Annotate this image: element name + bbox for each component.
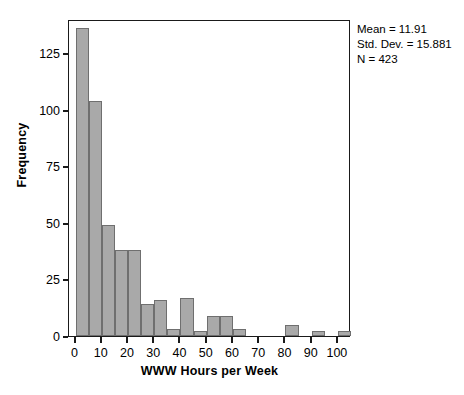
histogram-bar: [312, 331, 325, 336]
tick-mark: [257, 337, 259, 343]
y-axis-tick-label: 50: [46, 215, 60, 233]
stat-std-dev: Std. Dev. = 15.881: [357, 37, 461, 52]
stat-n: N = 423: [357, 52, 461, 67]
histogram-bar: [285, 325, 298, 336]
histogram-bar: [338, 331, 351, 336]
histogram-bar: [194, 331, 207, 336]
tick-mark: [126, 337, 128, 343]
y-axis-tick-label: 0: [53, 328, 60, 346]
tick-mark: [152, 337, 154, 343]
x-axis-tick-label: 100: [317, 345, 357, 361]
tick-mark: [178, 337, 180, 343]
y-axis-tick-label: 75: [46, 158, 60, 176]
histogram-bar: [233, 329, 246, 336]
histogram-bar: [141, 304, 154, 336]
y-axis: 0255075100125: [0, 20, 68, 338]
histogram-bar: [220, 316, 233, 336]
y-axis-tick-label: 100: [39, 102, 60, 120]
histogram-bar: [76, 28, 89, 336]
x-axis-title: WWW Hours per Week: [68, 364, 351, 378]
histogram-bar: [154, 300, 167, 336]
tick-mark: [74, 337, 76, 343]
histogram-bar: [89, 101, 102, 336]
tick-mark: [205, 337, 207, 343]
plot-frame: [68, 20, 350, 337]
x-axis: 0102030405060708090100: [68, 337, 351, 365]
histogram-bar: [102, 225, 115, 336]
histogram-bar: [128, 250, 141, 336]
histogram-figure: 0255075100125 Frequency 0102030405060708…: [0, 0, 464, 395]
y-axis-title: Frequency: [15, 80, 29, 230]
y-axis-tick-label: 25: [46, 271, 60, 289]
tick-mark: [283, 337, 285, 343]
tick-mark: [336, 337, 338, 343]
histogram-bar: [167, 329, 180, 336]
y-axis-tick-label: 125: [39, 45, 60, 63]
histogram-bar: [207, 316, 220, 336]
stat-mean: Mean = 11.91: [357, 22, 461, 37]
plot-area: [69, 21, 349, 336]
histogram-bar: [115, 250, 128, 336]
tick-mark: [310, 337, 312, 343]
tick-mark: [100, 337, 102, 343]
tick-mark: [231, 337, 233, 343]
histogram-bar: [180, 298, 193, 336]
statistics-box: Mean = 11.91 Std. Dev. = 15.881 N = 423: [357, 22, 461, 67]
